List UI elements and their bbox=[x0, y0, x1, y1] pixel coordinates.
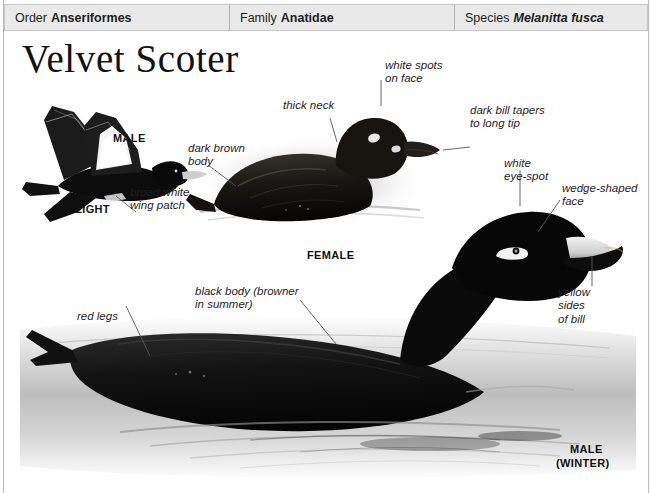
caption-male-flight: MALE bbox=[113, 132, 146, 145]
annotation-dark-brown-body: dark brown body bbox=[188, 142, 245, 169]
bird-illustrations bbox=[0, 0, 652, 493]
caption-female: FEMALE bbox=[307, 249, 354, 262]
caption-male-winter-line2: (WINTER) bbox=[556, 457, 610, 470]
caption-in-flight: IN FLIGHT bbox=[53, 203, 110, 216]
annotation-broad-white-wing-patch: broad white wing patch bbox=[130, 186, 189, 213]
annotation-black-body: black body (browner in summer) bbox=[195, 285, 299, 312]
annotation-thick-neck: thick neck bbox=[283, 99, 334, 112]
annotation-white-eye-spot: white eye-spot bbox=[504, 157, 548, 184]
annotation-red-legs: red legs bbox=[77, 310, 118, 323]
annotation-yellow-sides-of-bill: yellow sides of bill bbox=[558, 286, 590, 326]
annotation-wedge-shaped-face: wedge-shaped face bbox=[562, 182, 637, 209]
annotation-dark-bill-tapers: dark bill tapers to long tip bbox=[470, 104, 545, 131]
annotation-white-spots-on-face: white spots on face bbox=[385, 59, 443, 86]
caption-male-winter-line1: MALE bbox=[570, 443, 603, 456]
field-guide-page: Order Anseriformes Family Anatidae Speci… bbox=[0, 0, 652, 493]
